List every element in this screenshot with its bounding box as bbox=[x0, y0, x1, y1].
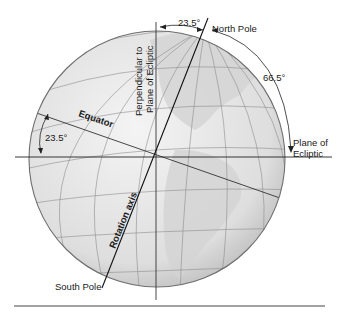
south-pole-label: South Pole bbox=[55, 281, 101, 292]
globe bbox=[20, 28, 300, 295]
top-angle-label: 23.5° bbox=[178, 17, 200, 28]
arrow-head bbox=[160, 25, 166, 30]
plane-label-1: Plane of bbox=[293, 137, 328, 148]
north-pole-label: North Pole bbox=[212, 23, 257, 34]
plane-label-2: Ecliptic bbox=[293, 148, 323, 159]
perpendicular-label-2: Plane of Ecliptic bbox=[144, 45, 155, 113]
left-angle-label: 23.5° bbox=[45, 132, 67, 143]
earth-tilt-diagram: 23.5° North Pole 66.5° Plane of Ecliptic… bbox=[0, 0, 344, 313]
right-angle-label: 66.5° bbox=[263, 72, 285, 83]
perpendicular-label-1: Perpendicular to bbox=[133, 47, 144, 116]
